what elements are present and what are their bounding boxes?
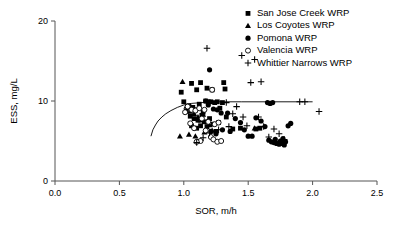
legend: San Jose Creek WRPLos Coyotes WRPPomona … xyxy=(245,7,352,68)
data-point xyxy=(240,114,246,120)
data-point xyxy=(248,79,254,85)
legend-item-label: Los Coyotes WRP xyxy=(257,19,335,30)
data-point xyxy=(288,121,293,126)
data-point xyxy=(228,129,233,134)
x-axis-title: SOR, m/h xyxy=(195,205,237,216)
data-point xyxy=(213,131,218,136)
filled-square-icon xyxy=(246,11,251,16)
filled-circle-icon xyxy=(245,36,250,41)
y-axis-title: ESS, mg/L xyxy=(8,78,19,123)
x-tick-label: 2.0 xyxy=(306,188,319,198)
data-point xyxy=(202,107,207,112)
x-tick-label: 0.5 xyxy=(113,188,126,198)
legend-item-0: San Jose Creek WRP xyxy=(246,7,350,18)
legend-item-2: Pomona WRP xyxy=(245,32,317,43)
data-point xyxy=(270,100,275,105)
plus-icon xyxy=(245,60,251,66)
data-point xyxy=(198,80,203,85)
x-tick-label: 2.5 xyxy=(371,188,384,198)
data-point xyxy=(249,134,254,139)
data-point xyxy=(203,128,208,133)
legend-item-label: Valencia WRP xyxy=(257,44,318,55)
x-tick-label: 0.0 xyxy=(49,188,62,198)
data-point xyxy=(283,139,288,144)
data-point xyxy=(258,118,263,123)
data-point xyxy=(271,126,277,132)
scatter-chart-figure: 010200.00.51.01.52.02.5 SOR, m/hESS, mg/… xyxy=(0,0,402,227)
x-tick-label: 1.0 xyxy=(178,188,191,198)
plot-canvas: 010200.00.51.01.52.02.5 SOR, m/hESS, mg/… xyxy=(0,0,402,227)
data-point xyxy=(177,133,183,138)
legend-item-label: Whittier Narrows WRP xyxy=(257,57,352,68)
data-point xyxy=(316,108,322,114)
data-point xyxy=(219,138,224,143)
legend-item-label: San Jose Creek WRP xyxy=(257,7,349,18)
data-point xyxy=(216,120,221,125)
data-point xyxy=(221,80,226,85)
legend-item-3: Valencia WRP xyxy=(245,44,317,55)
data-point xyxy=(206,119,211,124)
data-point xyxy=(233,103,239,109)
open-circle-icon xyxy=(245,48,250,53)
data-point xyxy=(210,87,215,92)
data-point xyxy=(181,99,186,104)
data-point xyxy=(215,99,220,104)
y-tick-label: 10 xyxy=(38,96,48,106)
data-point xyxy=(194,87,199,92)
data-point xyxy=(207,67,212,72)
y-tick-label: 0 xyxy=(43,176,48,186)
x-tick-label: 1.5 xyxy=(242,188,255,198)
data-point xyxy=(206,102,211,107)
data-point xyxy=(192,126,197,131)
data-point xyxy=(239,52,245,58)
data-point xyxy=(258,79,264,85)
data-point xyxy=(204,45,210,51)
data-point xyxy=(188,121,193,126)
data-point xyxy=(198,123,203,128)
data-point xyxy=(189,81,194,86)
series-2 xyxy=(203,67,293,147)
data-point xyxy=(242,127,247,132)
legend-item-label: Pomona WRP xyxy=(257,32,317,43)
data-point xyxy=(205,86,210,91)
data-point xyxy=(253,115,258,120)
data-point xyxy=(197,106,202,111)
y-tick-label: 20 xyxy=(38,16,48,26)
axes: 010200.00.51.01.52.02.5 xyxy=(38,16,383,198)
data-point xyxy=(225,110,230,115)
data-point xyxy=(179,90,184,95)
data-point xyxy=(302,99,308,105)
data-point xyxy=(219,110,224,115)
data-point xyxy=(233,116,238,121)
data-point xyxy=(183,110,188,115)
data-point xyxy=(192,133,198,138)
data-point xyxy=(276,131,282,137)
legend-item-1: Los Coyotes WRP xyxy=(245,19,335,30)
data-point xyxy=(238,120,243,125)
data-point xyxy=(223,87,228,92)
data-point xyxy=(186,132,192,137)
data-point xyxy=(199,116,204,121)
data-point xyxy=(180,79,186,84)
legend-item-4: Whittier Narrows WRP xyxy=(245,57,352,68)
filled-triangle-icon xyxy=(245,23,251,28)
